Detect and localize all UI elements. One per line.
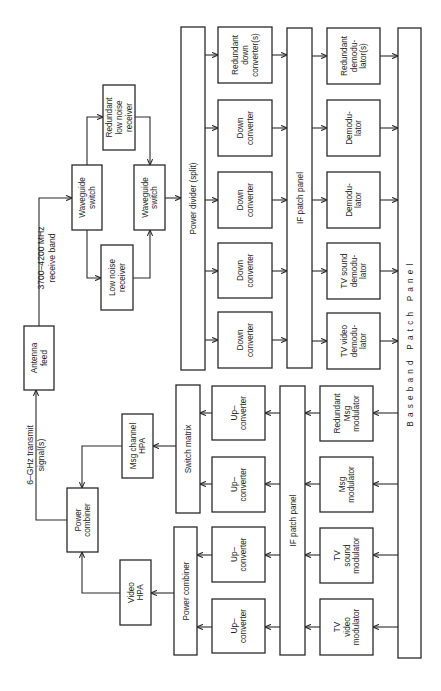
block-label: lator [354, 192, 363, 208]
block-label: Msg channel [129, 423, 138, 470]
receive-band-line2: receive band [47, 233, 57, 282]
block-label: HPA [138, 437, 147, 454]
block-label: lator [359, 333, 368, 349]
block-label: converter [246, 183, 255, 217]
block-label: demodu- [350, 40, 359, 73]
receive-band-line1: 3700–4200 MHz [36, 226, 46, 289]
block-label: TV sound [340, 253, 349, 288]
block-label: Down [236, 117, 245, 138]
receive-band-annotation: 3700–4200 MHz receive band [36, 226, 57, 289]
block-label: TV [333, 621, 342, 632]
block-power-combiner: Powercombiner [67, 488, 98, 552]
block-waveguide-switch-2: Waveguideswitch [134, 165, 165, 230]
block-up-converter-2: Up–converter [212, 527, 265, 582]
block-label: down [241, 45, 250, 65]
block-label: Switch matrix [184, 425, 193, 474]
block-label: receiver [118, 263, 127, 292]
block-label: demodu- [350, 325, 359, 358]
block-label: Video [127, 582, 136, 603]
wire [135, 117, 150, 165]
block-antenna-feed: Antennafeed [24, 326, 54, 390]
wire [87, 230, 101, 278]
block-label: combiner [83, 503, 92, 537]
block-label: Redundant [340, 35, 349, 76]
block-up-converter-4: Up–converter [212, 386, 265, 440]
wire [82, 552, 120, 593]
block-label: converter(s) [251, 33, 260, 77]
block-down-converter-3: Downconverter [218, 172, 272, 228]
block-down-converter-redundant: Redundantdownconverter(s) [218, 27, 272, 83]
block-tv-sound-demodulator: TV sounddemodu-lator [327, 243, 380, 299]
block-demodulator-2: Demodu-lator [327, 100, 380, 156]
block-label: modulator [352, 609, 361, 646]
block-label: TV [333, 550, 342, 561]
block-label: TV video [340, 324, 349, 357]
wire [82, 446, 122, 488]
block-baseband-patch-panel: Baseband Patch Panel [398, 28, 421, 658]
block-label: converter [246, 253, 255, 287]
block-label: Redundant [231, 34, 240, 75]
block-label: sound [343, 544, 352, 567]
block-label: Msg [338, 476, 347, 492]
block-power-combiner-tx: Power combiner [174, 527, 197, 655]
block-label: switch [150, 186, 159, 209]
block-tv-video-demodulator: TV videodemodu-lator [327, 313, 380, 369]
block-label: Waveguide [78, 177, 87, 218]
block-tv-video-modulator: TVvideomodulator [320, 599, 373, 655]
block-video-hpa: VideoHPA [120, 560, 151, 625]
block-label: video [343, 617, 352, 637]
block-label: Up– [230, 477, 239, 492]
transmit-line1: 6–GHz transmit [25, 425, 35, 485]
block-up-converter-1: Up–converter [212, 599, 265, 653]
block-up-converter-3: Up–converter [212, 457, 265, 512]
block-label: Up– [230, 547, 239, 562]
block-label: Demodu- [345, 111, 354, 145]
block-label: Antenna [30, 342, 39, 373]
block-label: Down [236, 260, 245, 281]
block-label: lator [354, 120, 363, 136]
block-label: Down [236, 329, 245, 350]
block-label: Power combiner [182, 561, 191, 620]
block-label: converter [246, 323, 255, 357]
wire [133, 230, 150, 278]
block-down-converter-4: Downconverter [218, 100, 272, 156]
block-label: converter [239, 537, 248, 571]
block-label: switch [88, 186, 97, 209]
block-if-patch-panel-rx: IF patch panel [287, 28, 312, 368]
block-msg-channel-hpa: Msg channelHPA [122, 414, 153, 478]
block-label: lator [359, 263, 368, 279]
block-down-converter-1: Downconverter [218, 312, 272, 368]
block-label: receiver [125, 103, 134, 132]
block-down-converter-2: Downconverter [218, 243, 272, 298]
block-redundant-msg-modulator: RedundantMsgmodulator [320, 386, 373, 441]
diagram-blocks: AntennafeedWaveguideswitchLow noiserecei… [24, 27, 421, 658]
block-label: Power [74, 508, 83, 531]
block-label: IF patch panel [289, 494, 298, 546]
block-demodulator-1: Demodu-lator [327, 172, 380, 228]
block-redundant-low-noise-receiver: Redundantlow noisereceiver [103, 85, 135, 150]
block-msg-modulator: Msgmodulator [320, 457, 373, 512]
block-label: Low noise [108, 259, 117, 296]
block-label: Demodu- [345, 183, 354, 217]
block-label: modulator [347, 466, 356, 503]
block-label: low noise [115, 100, 124, 135]
block-label: Up– [230, 618, 239, 633]
block-label: converter [239, 609, 248, 643]
block-demodulator-redundant: Redundantdemodu-lator(s) [327, 28, 380, 84]
block-label: Waveguide [141, 177, 150, 218]
block-label: HPA [136, 584, 145, 601]
block-switch-matrix: Switch matrix [176, 385, 200, 513]
block-label: converter [239, 396, 248, 430]
block-label: feed [40, 350, 49, 366]
block-label: Redundant [333, 393, 342, 434]
block-label: Down [236, 189, 245, 210]
block-label: converter [246, 111, 255, 145]
block-power-divider: Power divider (split) [181, 27, 205, 370]
block-label: Baseband Patch Panel [406, 259, 415, 426]
block-waveguide-switch-1: Waveguideswitch [72, 165, 102, 230]
block-low-noise-receiver: Low noisereceiver [101, 245, 133, 310]
earth-station-block-diagram: AntennafeedWaveguideswitchLow noiserecei… [0, 0, 441, 691]
block-if-patch-panel-tx: IF patch panel [280, 386, 305, 655]
block-label: lator(s) [359, 43, 368, 69]
block-label: modulator [352, 395, 361, 432]
